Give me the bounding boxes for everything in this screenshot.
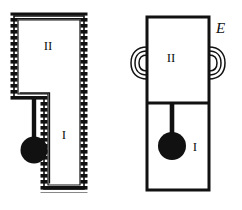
vessel-diagram: II I: [0, 0, 242, 210]
left-chamber-lower-label: I: [62, 127, 66, 142]
right-pendulum-bob: [158, 132, 186, 160]
left-coil-symbol-group: [131, 47, 147, 79]
right-chamber-lower-label: I: [193, 139, 197, 154]
left-chamber-upper-label: II: [44, 38, 53, 53]
external-energy-label: E: [215, 20, 225, 36]
left-pendulum-bob: [21, 137, 48, 164]
left-vessel-group: II I: [14, 16, 84, 189]
right-coil-symbol-group: [209, 47, 225, 79]
diagram-canvas: II I: [0, 0, 242, 210]
right-vessel-group: II I E: [131, 17, 225, 190]
right-chamber-upper-label: II: [167, 50, 176, 65]
